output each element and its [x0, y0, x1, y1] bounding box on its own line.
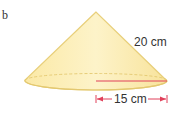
slant-height-label: 20 cm	[134, 35, 167, 49]
cone-body	[25, 12, 167, 90]
cone-diagram: 20 cm 15 cm	[0, 0, 174, 118]
radius-label: 15 cm	[114, 92, 147, 106]
